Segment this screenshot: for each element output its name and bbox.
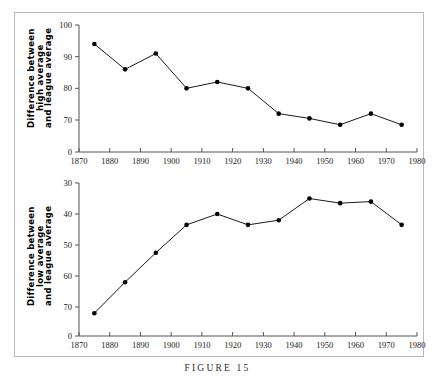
y-tick-label: 90	[47, 52, 72, 62]
x-tick-label: 1980	[401, 156, 433, 166]
data-point	[123, 280, 128, 285]
x-tick-label: 1970	[370, 340, 402, 350]
chart-panel-top: Difference betweenhigh averageand league…	[0, 0, 435, 175]
data-point	[184, 86, 189, 91]
x-tick-label: 1870	[63, 340, 95, 350]
figure-caption: FIGURE 15	[0, 363, 435, 373]
data-point	[123, 67, 128, 72]
data-point	[246, 223, 251, 228]
x-tick-label: 1960	[340, 156, 372, 166]
data-point	[92, 42, 97, 47]
data-point	[154, 51, 159, 56]
chart-canvas-bottom	[0, 170, 435, 355]
data-point	[399, 223, 404, 228]
y-tick-label: 30	[47, 178, 72, 188]
data-point	[369, 111, 374, 116]
chart-panel-bottom: Difference betweenlow averageand league …	[0, 170, 435, 355]
x-tick-label: 1980	[401, 340, 433, 350]
x-tick-label: 1920	[217, 340, 249, 350]
data-point	[307, 196, 312, 201]
data-point	[276, 218, 281, 223]
data-point	[369, 199, 374, 204]
x-tick-label: 1970	[370, 156, 402, 166]
x-tick-label: 1920	[217, 156, 249, 166]
x-tick-label: 1880	[94, 340, 126, 350]
y-tick-label: 40	[47, 209, 72, 219]
x-tick-label: 1940	[278, 340, 310, 350]
data-point	[184, 223, 189, 228]
y-tick-label: 60	[47, 271, 72, 281]
x-tick-label: 1870	[63, 156, 95, 166]
y-tick-label: 80	[47, 83, 72, 93]
x-tick-label: 1900	[155, 340, 187, 350]
data-point	[154, 250, 159, 255]
x-tick-label: 1930	[247, 156, 279, 166]
data-point	[307, 116, 312, 121]
x-tick-label: 1950	[309, 156, 341, 166]
data-point	[92, 311, 97, 316]
x-tick-label: 1950	[309, 340, 341, 350]
y-tick-label: 70	[47, 302, 72, 312]
data-point	[215, 80, 220, 85]
data-point	[338, 201, 343, 206]
y-tick-label: 70	[47, 115, 72, 125]
y-tick-label: 100	[47, 20, 72, 30]
y-tick-label: 50	[47, 240, 72, 250]
x-tick-label: 1910	[186, 156, 218, 166]
x-tick-label: 1960	[340, 340, 372, 350]
figure-root: Difference betweenhigh averageand league…	[0, 0, 435, 384]
data-point	[276, 111, 281, 116]
x-tick-label: 1890	[124, 156, 156, 166]
x-tick-label: 1940	[278, 156, 310, 166]
x-tick-label: 1890	[124, 340, 156, 350]
x-tick-label: 1880	[94, 156, 126, 166]
x-tick-label: 1900	[155, 156, 187, 166]
x-tick-label: 1930	[247, 340, 279, 350]
data-point	[399, 122, 404, 127]
x-tick-label: 1910	[186, 340, 218, 350]
data-point	[215, 212, 220, 217]
data-point	[338, 122, 343, 127]
data-point	[246, 86, 251, 91]
